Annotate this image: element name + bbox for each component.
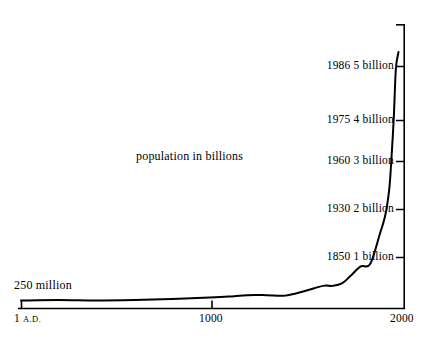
y-annotation-1850: 18501 billion [327,251,394,263]
y-annotation-1986-amount: 5 billion [354,59,394,71]
x-tick-label-1ad-main: 1 [14,312,20,324]
x-tick-label-1000: 1000 [199,313,223,325]
y-annotation-1850-amount: 1 billion [354,250,394,262]
annotation-250-million: 250 million [14,279,72,291]
y-annotation-1960-amount: 3 billion [354,154,394,166]
y-annotation-1930-amount: 2 billion [354,202,394,214]
y-annotation-1975-amount: 4 billion [354,113,394,125]
y-annotation-1850-year: 1850 [327,250,351,262]
y-annotation-1986-year: 1986 [327,59,351,71]
y-annotation-1960: 19603 billion [327,155,394,167]
population-growth-chart: 250 million population in billions 19865… [0,0,430,345]
x-tick-label-1ad-era: A.D. [23,314,41,324]
chart-plot-area [0,0,430,345]
population-curve [21,52,399,301]
y-annotation-1986: 19865 billion [327,60,394,72]
x-tick-label-2000: 2000 [390,313,414,325]
y-annotation-1930-year: 1930 [327,202,351,214]
y-annotation-1960-year: 1960 [327,154,351,166]
x-tick-label-1ad: 1 A.D. [14,313,41,325]
y-annotation-1930: 19302 billion [327,203,394,215]
y-annotation-1975: 19754 billion [327,114,394,126]
series-label: population in billions [136,150,243,162]
y-annotation-1975-year: 1975 [327,113,351,125]
